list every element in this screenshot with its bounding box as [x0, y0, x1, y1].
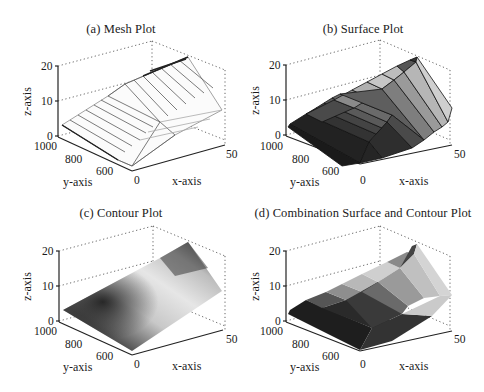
y-tick-800: 800	[292, 338, 309, 350]
y-axis-label: y-axis	[290, 361, 319, 374]
x-axis-label: x-axis	[172, 175, 201, 188]
z-tick-20: 20	[269, 245, 281, 257]
panel-combination-plot: (d) Combination Surface and Contour Plot	[242, 196, 484, 392]
y-tick-1000: 1000	[260, 140, 283, 152]
z-tick-20: 20	[41, 60, 53, 72]
y-tick-1000: 1000	[34, 325, 57, 337]
z-tick-10: 10	[42, 280, 54, 292]
y-tick-600: 600	[96, 350, 113, 362]
y-tick-800: 800	[292, 153, 309, 165]
y-tick-800: 800	[65, 338, 82, 350]
x-tick-0: 0	[360, 358, 366, 370]
z-tick-20: 20	[42, 245, 54, 257]
panel-surface-plot: (b) Surface Plot	[242, 0, 484, 196]
x-tick-50: 50	[454, 148, 466, 160]
y-axis-label: y-axis	[63, 176, 92, 189]
mesh-plot-canvas	[0, 0, 242, 196]
z-tick-10: 10	[269, 280, 281, 292]
y-axis-label: y-axis	[290, 176, 319, 189]
panel-contour-plot: (c) Contour Plot	[0, 196, 242, 392]
y-tick-600: 600	[96, 165, 113, 177]
z-tick-20: 20	[269, 59, 281, 71]
z-tick-10: 10	[41, 95, 53, 107]
x-tick-50: 50	[226, 148, 238, 160]
z-axis-label: z-axis	[249, 86, 262, 115]
x-tick-0: 0	[134, 174, 140, 186]
y-tick-800: 800	[65, 153, 82, 165]
x-axis-label: x-axis	[399, 175, 428, 188]
y-tick-1000: 1000	[34, 140, 57, 152]
y-axis-label: y-axis	[63, 361, 92, 374]
z-axis-label: z-axis	[249, 272, 262, 301]
y-tick-600: 600	[322, 350, 339, 362]
y-tick-1000: 1000	[260, 325, 283, 337]
x-tick-0: 0	[360, 174, 366, 186]
z-axis-label: z-axis	[21, 272, 34, 301]
y-tick-600: 600	[322, 165, 339, 177]
z-tick-10: 10	[269, 94, 281, 106]
x-tick-0: 0	[134, 358, 140, 370]
panel-mesh-plot: (a) Mesh Plot	[0, 0, 242, 196]
x-axis-label: x-axis	[399, 360, 428, 373]
x-tick-50: 50	[454, 333, 466, 345]
z-axis-label: z-axis	[21, 87, 34, 116]
contour-plot-canvas	[0, 196, 242, 392]
x-axis-label: x-axis	[172, 360, 201, 373]
x-tick-50: 50	[226, 333, 238, 345]
